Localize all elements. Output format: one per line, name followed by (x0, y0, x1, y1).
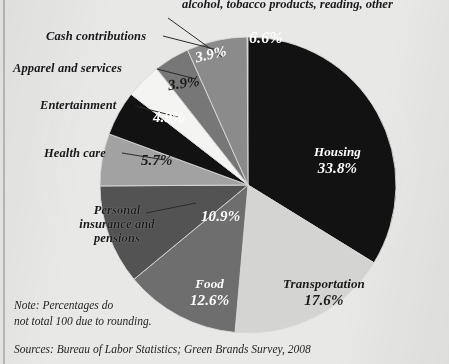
slice-label-food: Food 12.6% (190, 262, 229, 323)
slice-label-housing-text: Housing (314, 144, 361, 159)
figure-page: alcohol, tobacco products, reading, othe… (0, 0, 449, 364)
slice-percent-transportation: 17.6% (283, 292, 365, 309)
slice-percent-housing: 33.8% (314, 160, 361, 177)
figure-note: Note: Percentages do not total 100 due t… (14, 298, 152, 329)
slice-percent-health-care: 5.7% (141, 152, 173, 169)
callout-label-entertainment: Entertainment (40, 98, 116, 112)
figure-sources: Sources: Bureau of Labor Statistics; Gre… (14, 342, 311, 358)
slice-label-housing: Housing 33.8% (314, 130, 361, 191)
slice-percent-alcohol-tobacco-reading-other: 6.6% (249, 29, 283, 47)
callout-label-health-care: Health care (44, 146, 106, 160)
slice-label-transportation: Transportation 17.6% (283, 262, 365, 323)
slice-percent-food: 12.6% (190, 292, 229, 309)
callout-label-personal-insurance-and-pensions: Personal insurance and pensions (62, 203, 172, 245)
callout-label-apparel-and-services: Apparel and services (13, 61, 122, 75)
slice-percent-personal-insurance-and-pensions: 10.9% (201, 208, 240, 225)
slice-label-transportation-text: Transportation (283, 276, 365, 291)
callout-label-cash-contributions: Cash contributions (46, 29, 146, 43)
slice-percent-entertainment: 4.9% (153, 109, 185, 126)
slice-label-food-text: Food (195, 276, 224, 291)
callout-label-alcohol-tobacco-reading-other: alcohol, tobacco products, reading, othe… (182, 0, 393, 12)
